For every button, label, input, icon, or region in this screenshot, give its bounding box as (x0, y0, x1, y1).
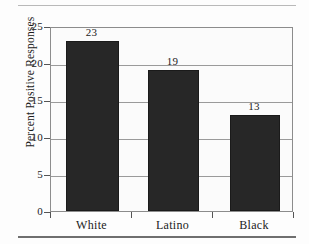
bar (148, 70, 199, 211)
bar (230, 115, 280, 211)
x-axis-tick-mark (293, 212, 294, 218)
x-axis-tick-mark (50, 212, 51, 218)
y-axis-tick-label: 10 (32, 131, 43, 143)
y-axis-tick-label: 25 (32, 20, 43, 32)
x-axis-category-label: Black (217, 218, 291, 233)
figure-container: Percent Positive Responses 0510152025 23… (0, 0, 309, 244)
bar-value-label: 19 (147, 55, 198, 67)
top-divider-rule (18, 5, 296, 6)
bar-value-label: 13 (229, 100, 279, 112)
bottom-divider-rule (18, 236, 296, 238)
y-axis-tick-label: 15 (32, 94, 43, 106)
bar (66, 41, 119, 211)
x-axis-category-label: Latino (135, 218, 210, 233)
x-axis-tick-mark (212, 212, 213, 218)
y-axis-tick-label: 5 (37, 168, 43, 180)
x-axis-category-label: White (53, 218, 130, 233)
x-axis-tick-mark (131, 212, 132, 218)
y-axis-tick-label: 0 (37, 205, 43, 217)
bar-value-label: 23 (65, 26, 118, 38)
y-axis-tick-label: 20 (32, 57, 43, 69)
